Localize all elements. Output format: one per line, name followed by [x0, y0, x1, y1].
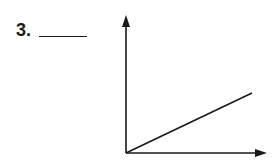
- y-axis: [122, 15, 130, 153]
- y-axis-arrow-icon: [122, 15, 130, 27]
- x-axis-arrow-icon: [255, 149, 267, 157]
- graph: [0, 0, 277, 168]
- x-axis: [126, 149, 267, 157]
- data-line: [126, 93, 252, 153]
